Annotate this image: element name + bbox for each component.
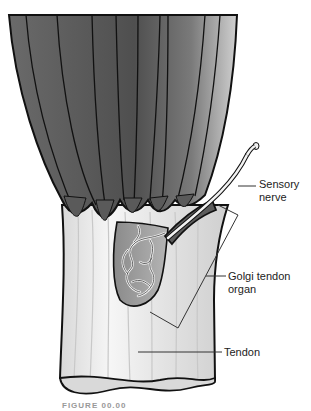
muscle-belly [9,15,237,220]
figure-caption: FIGURE 00.00 [62,401,126,410]
label-tendon: Tendon [224,346,260,359]
label-golgi-line1: Golgi tendon [228,270,290,283]
label-golgi-tendon-organ: Golgi tendon organ [228,270,290,296]
label-sensory-nerve-line1: Sensory [259,178,299,191]
label-sensory-nerve-line2: nerve [259,191,299,204]
anatomy-illustration [0,0,311,411]
label-golgi-line2: organ [228,283,290,296]
golgi-tendon-organ-diagram: Sensory nerve Golgi tendon organ Tendon … [0,0,311,411]
label-sensory-nerve: Sensory nerve [259,178,299,204]
